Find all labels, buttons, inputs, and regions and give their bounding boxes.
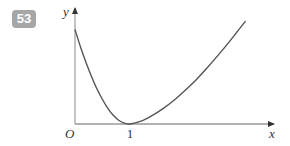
x-tick-label: 1: [127, 126, 134, 141]
series-line-curve: [75, 21, 246, 124]
origin-label: O: [65, 126, 75, 141]
x-axis-label: x: [268, 126, 275, 141]
y-axis-label: y: [61, 4, 69, 19]
chart: y x O 1: [0, 0, 290, 146]
